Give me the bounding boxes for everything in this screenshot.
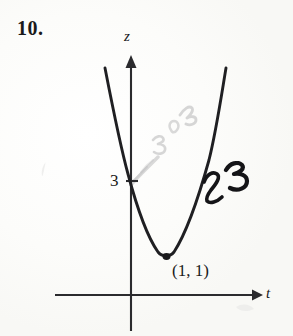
erased-pencil-scrawl [131, 107, 196, 185]
problem-number: 10. [17, 18, 44, 38]
pencil-smudge-below-axis [236, 305, 254, 312]
t-axis [55, 290, 263, 301]
pencil-smudge-left [42, 163, 46, 176]
z-axis-label: z [124, 29, 130, 44]
vertex-point-marker [163, 253, 171, 260]
vertex-coordinate-label: (1, 1) [172, 262, 209, 279]
figure-container: 10. z t 3 (1, 1) [0, 0, 293, 336]
z-intercept-label: 3 [110, 172, 119, 189]
t-axis-label: t [266, 286, 270, 301]
handwritten-annotation-2-cubed [201, 161, 253, 211]
